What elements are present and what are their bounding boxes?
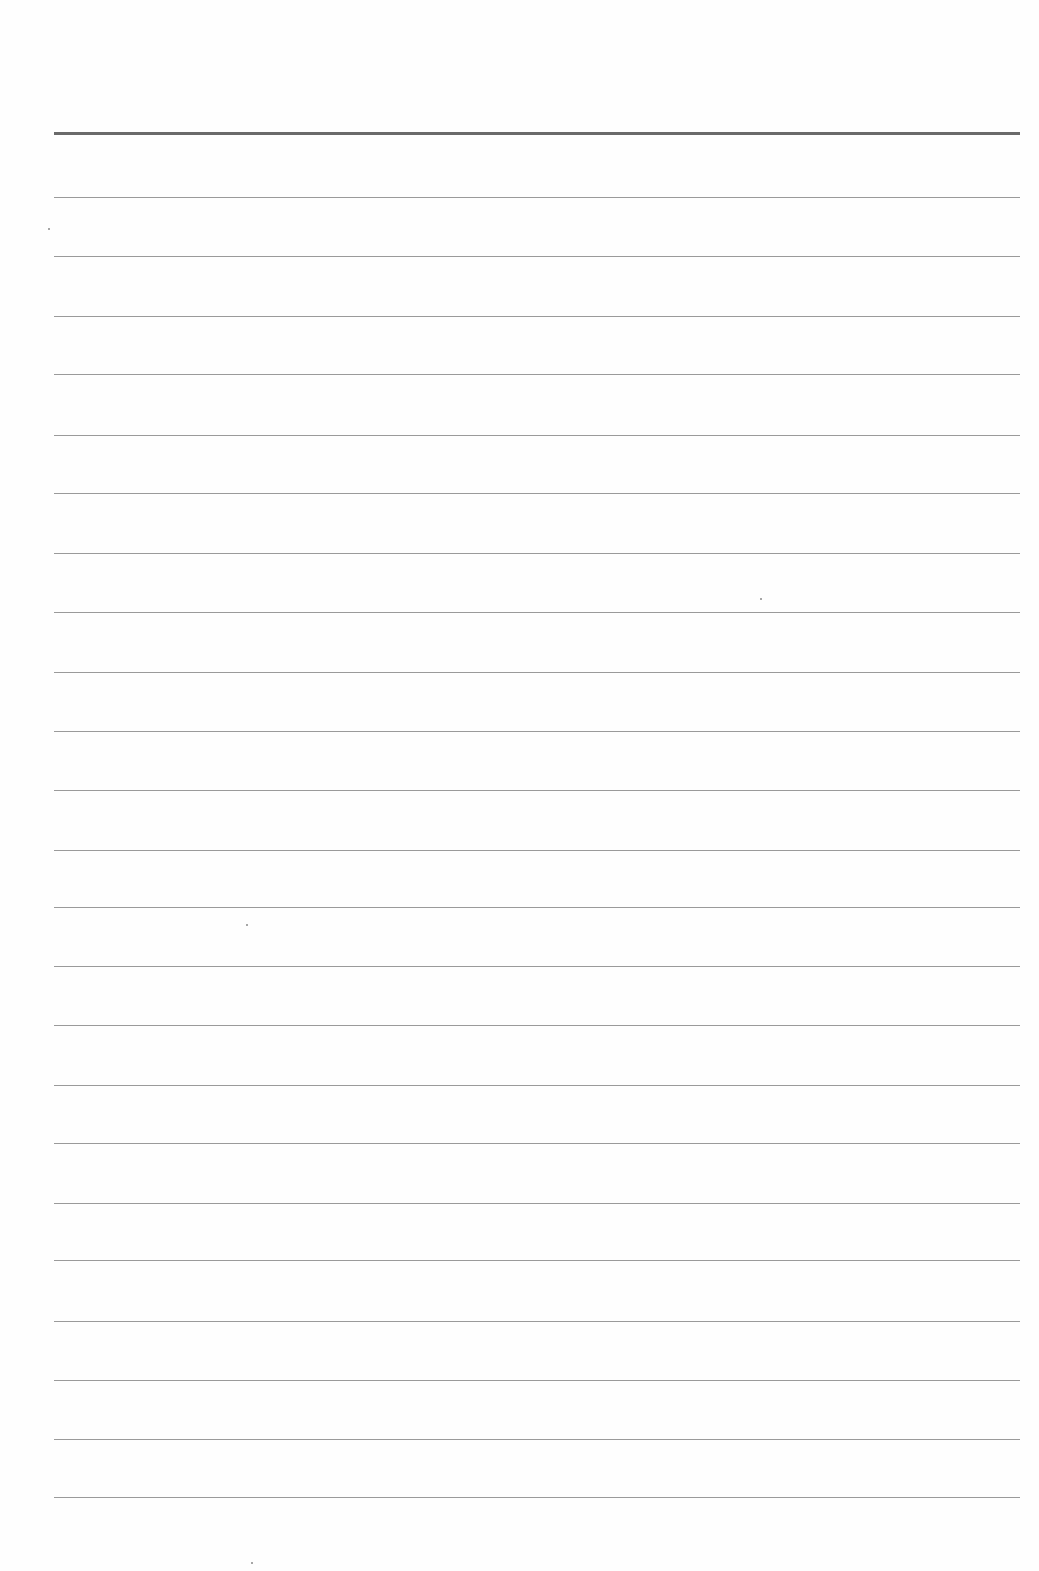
ruled-line — [54, 1025, 1020, 1026]
lined-paper-page — [0, 0, 1039, 1571]
ruled-line — [54, 966, 1020, 967]
ruled-line — [54, 374, 1020, 375]
ruled-line — [54, 197, 1020, 198]
paper-speck — [48, 228, 50, 230]
ruled-line — [54, 1321, 1020, 1322]
ruled-line — [54, 1497, 1020, 1498]
ruled-line — [54, 256, 1020, 257]
ruled-line — [54, 1203, 1020, 1204]
paper-speck — [251, 1562, 253, 1564]
ruled-line — [54, 1380, 1020, 1381]
ruled-line — [54, 1143, 1020, 1144]
ruled-line — [54, 850, 1020, 851]
ruled-line — [54, 1439, 1020, 1440]
ruled-line — [54, 553, 1020, 554]
ruled-line — [54, 672, 1020, 673]
ruled-line — [54, 1260, 1020, 1261]
ruled-line — [54, 1085, 1020, 1086]
ruled-line — [54, 316, 1020, 317]
ruled-line — [54, 493, 1020, 494]
ruled-line — [54, 612, 1020, 613]
paper-speck — [246, 924, 248, 926]
ruled-line — [54, 907, 1020, 908]
header-rule — [54, 132, 1020, 135]
paper-speck — [760, 598, 762, 600]
ruled-line — [54, 435, 1020, 436]
ruled-line — [54, 790, 1020, 791]
ruled-line — [54, 731, 1020, 732]
